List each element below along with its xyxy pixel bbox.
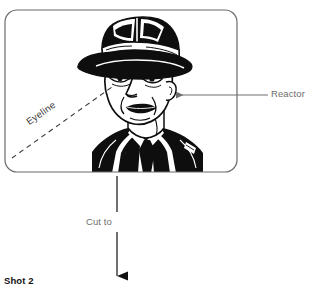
cut-to-annotation-label: Cut to [83,216,115,227]
storyboard-diagram: Reactor Eyeline Cut to Shot 2 [0,0,309,299]
shot-title-label: Shot 2 [4,275,34,286]
reactor-annotation-label: Reactor [271,88,305,99]
diagram-canvas [0,0,309,299]
panel-illustration [5,10,237,173]
